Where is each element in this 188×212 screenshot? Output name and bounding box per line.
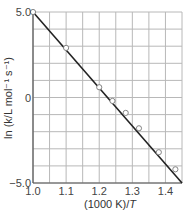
x-tick-label: 1.1	[58, 185, 73, 197]
x-tick-labels: 1.01.11.21.31.4	[25, 185, 173, 197]
y-axis-label: ln (k/L mol⁻¹ s⁻¹)	[2, 57, 14, 139]
y-tick-label: 5.0	[16, 6, 31, 18]
y-tick-label: −5.0	[9, 177, 31, 189]
data-point-marker	[173, 167, 178, 172]
data-point-marker	[136, 126, 141, 131]
data-point-marker	[123, 110, 128, 115]
data-point-marker	[97, 85, 102, 90]
y-tick-label: 0	[25, 92, 31, 104]
data-point-marker	[30, 9, 35, 14]
data-point-marker	[156, 150, 161, 155]
x-tick-label: 1.4	[158, 185, 173, 197]
x-tick-label: 1.2	[92, 185, 107, 197]
x-tick-label: 1.3	[125, 185, 140, 197]
data-point-marker	[64, 45, 69, 50]
data-point-marker	[110, 98, 115, 103]
x-axis-label: (1000 K)/T	[84, 198, 137, 210]
arrhenius-plot: 1.01.11.21.31.4 5.00−5.0 (1000 K)/T ln (…	[0, 0, 188, 212]
